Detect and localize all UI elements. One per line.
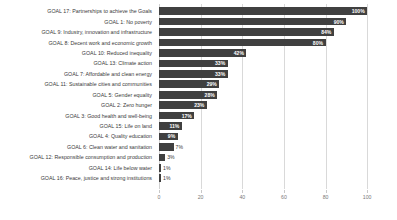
bar[interactable]: 29%	[159, 80, 219, 88]
bar-track: 28%	[159, 90, 388, 100]
bar-row: GOAL 11: Sustainable cities and communit…	[0, 79, 397, 89]
bar-row: GOAL 3: Good health and well-being17%	[0, 110, 397, 120]
category-label: GOAL 10: Reduced inequality	[0, 50, 155, 56]
bar-track: 1%	[159, 173, 388, 183]
bar-track: 29%	[159, 79, 388, 89]
bar-track: 11%	[159, 121, 388, 131]
bar[interactable]: 80%	[159, 39, 326, 47]
bar-value-label: 7%	[174, 144, 183, 150]
bar-value-label: 23%	[194, 102, 207, 108]
category-label: GOAL 15: Life on land	[0, 123, 155, 129]
bar-value-label: 80%	[313, 40, 326, 46]
bar[interactable]: 7%	[159, 143, 174, 151]
bar-value-label: 90%	[334, 19, 347, 25]
bar[interactable]: 23%	[159, 101, 207, 109]
x-tick-label: 20	[198, 194, 204, 201]
bar-rows: GOAL 17: Partnerships to achieve the Goa…	[0, 6, 397, 183]
bar-row: GOAL 5: Gender equality28%	[0, 90, 397, 100]
bar-row: GOAL 8: Decent work and economic growth8…	[0, 37, 397, 47]
bar[interactable]: 84%	[159, 28, 334, 36]
category-label: GOAL 11: Sustainable cities and communit…	[0, 81, 155, 87]
x-tick-label: 80	[323, 194, 329, 201]
bar[interactable]: 33%	[159, 70, 228, 78]
bar-value-label: 29%	[207, 81, 220, 87]
bar-track: 9%	[159, 131, 388, 141]
x-tick-mark	[201, 190, 202, 193]
x-tick-mark	[367, 190, 368, 193]
x-tick-mark	[159, 190, 160, 193]
bar-value-label: 9%	[168, 133, 178, 139]
bar-value-label: 33%	[215, 60, 228, 66]
bar-row: GOAL 4: Quality education9%	[0, 131, 397, 141]
category-label: GOAL 13: Climate action	[0, 60, 155, 66]
bar-track: 17%	[159, 110, 388, 120]
x-tick-label: 60	[281, 194, 287, 201]
bar-value-label: 3%	[165, 154, 174, 160]
bar-value-label: 100%	[352, 8, 368, 14]
category-label: GOAL 17: Partnerships to achieve the Goa…	[0, 8, 155, 14]
bar-value-label: 1%	[161, 165, 170, 171]
bar-row: GOAL 12: Responsible consumption and pro…	[0, 152, 397, 162]
bar-value-label: 28%	[205, 92, 218, 98]
bar-track: 7%	[159, 142, 388, 152]
bar-row: GOAL 6: Clean water and sanitation7%	[0, 142, 397, 152]
bar-row: GOAL 2: Zero hunger23%	[0, 100, 397, 110]
bar-row: GOAL 14: Life below water1%	[0, 163, 397, 173]
bar[interactable]: 100%	[159, 7, 367, 15]
bar-row: GOAL 17: Partnerships to achieve the Goa…	[0, 6, 397, 16]
x-tick-label: 100	[363, 194, 372, 201]
bar[interactable]: 1%	[159, 174, 161, 182]
bar-row: GOAL 9: Industry, innovation and infrast…	[0, 27, 397, 37]
bar-row: GOAL 16: Peace, justice and strong insti…	[0, 173, 397, 183]
bar[interactable]: 1%	[159, 164, 161, 172]
x-tick-mark	[284, 190, 285, 193]
bar-track: 33%	[159, 58, 388, 68]
bar-track: 84%	[159, 27, 388, 37]
category-label: GOAL 12: Responsible consumption and pro…	[0, 154, 155, 160]
bar[interactable]: 11%	[159, 122, 182, 130]
bar-track: 80%	[159, 37, 388, 47]
category-label: GOAL 7: Affordable and clean energy	[0, 71, 155, 77]
category-label: GOAL 8: Decent work and economic growth	[0, 40, 155, 46]
chart-page: GOAL 17: Partnerships to achieve the Goa…	[0, 0, 397, 220]
bar-row: GOAL 1: No poverty90%	[0, 16, 397, 26]
category-label: GOAL 1: No poverty	[0, 19, 155, 25]
bar-track: 90%	[159, 16, 388, 26]
category-label: GOAL 5: Gender equality	[0, 92, 155, 98]
category-label: GOAL 3: Good health and well-being	[0, 113, 155, 119]
x-tick-label: 40	[239, 194, 245, 201]
category-label: GOAL 16: Peace, justice and strong insti…	[0, 175, 155, 181]
category-label: GOAL 9: Industry, innovation and infrast…	[0, 29, 155, 35]
bar-value-label: 1%	[161, 175, 170, 181]
bar[interactable]: 9%	[159, 133, 178, 141]
bar-track: 100%	[159, 6, 388, 16]
category-label: GOAL 6: Clean water and sanitation	[0, 144, 155, 150]
category-label: GOAL 14: Life below water	[0, 165, 155, 171]
bar[interactable]: 3%	[159, 154, 165, 162]
bar-track: 1%	[159, 163, 388, 173]
category-label: GOAL 4: Quality education	[0, 133, 155, 139]
bar-track: 33%	[159, 69, 388, 79]
bar-row: GOAL 7: Affordable and clean energy33%	[0, 69, 397, 79]
bar[interactable]: 28%	[159, 91, 217, 99]
category-label: GOAL 2: Zero hunger	[0, 102, 155, 108]
bar[interactable]: 90%	[159, 18, 346, 26]
bar[interactable]: 17%	[159, 112, 194, 120]
x-tick-label: 0	[158, 194, 161, 201]
bar-value-label: 42%	[234, 50, 247, 56]
bar-value-label: 17%	[182, 113, 195, 119]
bar-value-label: 84%	[321, 29, 334, 35]
bar[interactable]: 33%	[159, 60, 228, 68]
bar-row: GOAL 10: Reduced inequality42%	[0, 48, 397, 58]
bar-row: GOAL 15: Life on land11%	[0, 121, 397, 131]
bar-track: 42%	[159, 48, 388, 58]
bar-row: GOAL 13: Climate action33%	[0, 58, 397, 68]
bar-value-label: 11%	[169, 123, 181, 129]
bar[interactable]: 42%	[159, 49, 246, 57]
x-tick-mark	[326, 190, 327, 193]
bar-track: 23%	[159, 100, 388, 110]
bar-track: 3%	[159, 152, 388, 162]
x-tick-mark	[242, 190, 243, 193]
bar-chart: GOAL 17: Partnerships to achieve the Goa…	[0, 0, 397, 220]
bar-value-label: 33%	[215, 71, 228, 77]
